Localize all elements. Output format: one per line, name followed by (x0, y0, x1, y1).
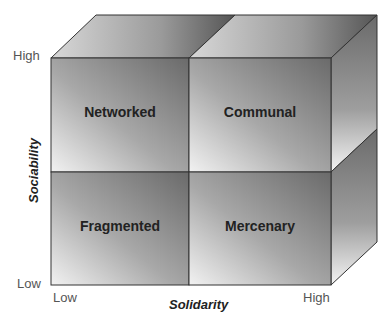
y-axis-label: Sociability (26, 131, 41, 211)
label-mercenary: Mercenary (191, 218, 329, 234)
x-axis-low: Low (53, 290, 77, 305)
label-communal: Communal (191, 104, 329, 120)
label-fragmented: Fragmented (51, 218, 189, 234)
x-axis-high: High (303, 290, 330, 305)
y-axis-high: High (13, 48, 40, 63)
x-axis-label: Solidarity (169, 297, 228, 312)
cube-graphic (0, 0, 390, 325)
label-networked: Networked (51, 104, 189, 120)
y-axis-low: Low (17, 276, 41, 291)
